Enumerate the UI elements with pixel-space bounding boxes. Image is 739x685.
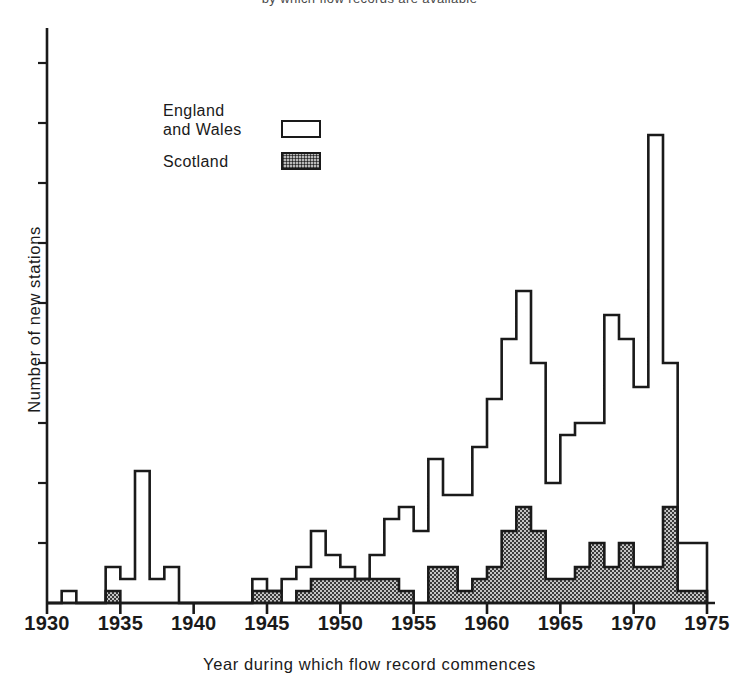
legend-swatch-england-wales [281,120,321,138]
total-outline-path [47,135,707,603]
x-tick-label: 1935 [80,612,160,635]
x-axis-label: Year during which flow record commences [0,655,739,674]
x-tick-label: 1940 [154,612,234,635]
histogram-figure: by which flow records are available Numb… [0,0,739,685]
legend-item-england-wales: England and Wales [163,101,321,139]
y-axis-label: Number of new stations [25,180,44,460]
top-caption-partial: by which flow records are available [0,0,739,7]
x-tick-label: 1975 [667,612,739,635]
legend-item-scotland: Scotland [163,152,321,171]
x-tick-label: 1930 [7,612,87,635]
legend-label-england-wales: England and Wales [163,101,275,139]
x-tick-label: 1945 [227,612,307,635]
x-tick-label: 1960 [447,612,527,635]
legend-label-scotland: Scotland [163,152,275,171]
legend-label-line1: Scotland [163,152,275,171]
series-england-wales-outline [47,135,707,603]
plot-area [0,0,739,685]
x-tick-label: 1970 [594,612,674,635]
x-tick-label: 1965 [520,612,600,635]
x-tick-label: 1950 [300,612,380,635]
legend-swatch-scotland [281,152,321,170]
legend-label-line1: England [163,101,275,120]
legend-label-line2: and Wales [163,120,275,139]
chart-legend: England and Wales Scotland [163,101,321,184]
x-tick-label: 1955 [374,612,454,635]
axis-lines [38,28,715,614]
